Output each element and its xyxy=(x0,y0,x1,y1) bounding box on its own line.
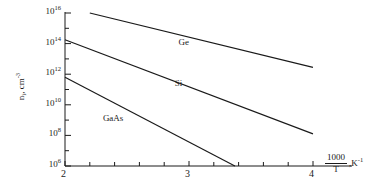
y-tick-exponent: 12 xyxy=(55,65,62,72)
y-axis-title-rest: , cm xyxy=(16,78,26,94)
y-tick-label: 1016 xyxy=(28,7,61,16)
y-tick-exponent: 14 xyxy=(55,35,62,42)
x-axis-title-denominator: T xyxy=(331,165,341,174)
y-axis-title-sup: -3 xyxy=(14,73,21,78)
y-tick-mantissa: 10 xyxy=(49,128,58,138)
x-axis-title: 1000 T , K-1 xyxy=(323,153,363,175)
y-tick-label: 1012 xyxy=(28,68,61,77)
series-label-si: Si xyxy=(175,79,183,88)
y-tick-exponent: 6 xyxy=(58,157,61,164)
y-tick-label: 1010 xyxy=(28,99,61,108)
x-axis-unit-exponent: -1 xyxy=(358,156,363,163)
y-tick-mantissa: 10 xyxy=(46,98,55,108)
x-tick-label: 2 xyxy=(61,169,66,179)
x-axis-title-unit: K-1 xyxy=(351,159,363,168)
y-tick-label: 106 xyxy=(28,160,61,169)
x-axis-title-fraction: 1000 T xyxy=(325,153,347,175)
y-tick-exponent: 8 xyxy=(58,126,61,133)
series-label-ge: Ge xyxy=(179,38,190,47)
intrinsic-carrier-concentration-chart: 106 108 1010 1012 1014 1016 2 3 4 Ge Si … xyxy=(0,0,382,194)
y-tick-exponent: 10 xyxy=(55,96,62,103)
y-axis-title-base: n xyxy=(16,96,26,101)
series-line-gaas xyxy=(65,77,235,166)
x-tick-label: 4 xyxy=(309,169,314,179)
y-tick-label: 108 xyxy=(28,129,61,138)
y-tick-mantissa: 10 xyxy=(46,67,55,77)
x-tick-label: 3 xyxy=(185,169,190,179)
x-axis-title-numerator: 1000 xyxy=(325,153,347,162)
series-label-gaas: GaAs xyxy=(103,114,124,123)
y-axis-title-sub: i xyxy=(20,94,27,96)
series-line-ge xyxy=(90,13,313,67)
y-tick-exponent: 16 xyxy=(55,4,62,11)
y-axis-title: ni, cm-3 xyxy=(17,57,26,117)
y-tick-label: 1014 xyxy=(28,38,61,47)
y-tick-mantissa: 10 xyxy=(46,37,55,47)
y-tick-mantissa: 10 xyxy=(46,6,55,16)
y-tick-mantissa: 10 xyxy=(49,159,58,169)
